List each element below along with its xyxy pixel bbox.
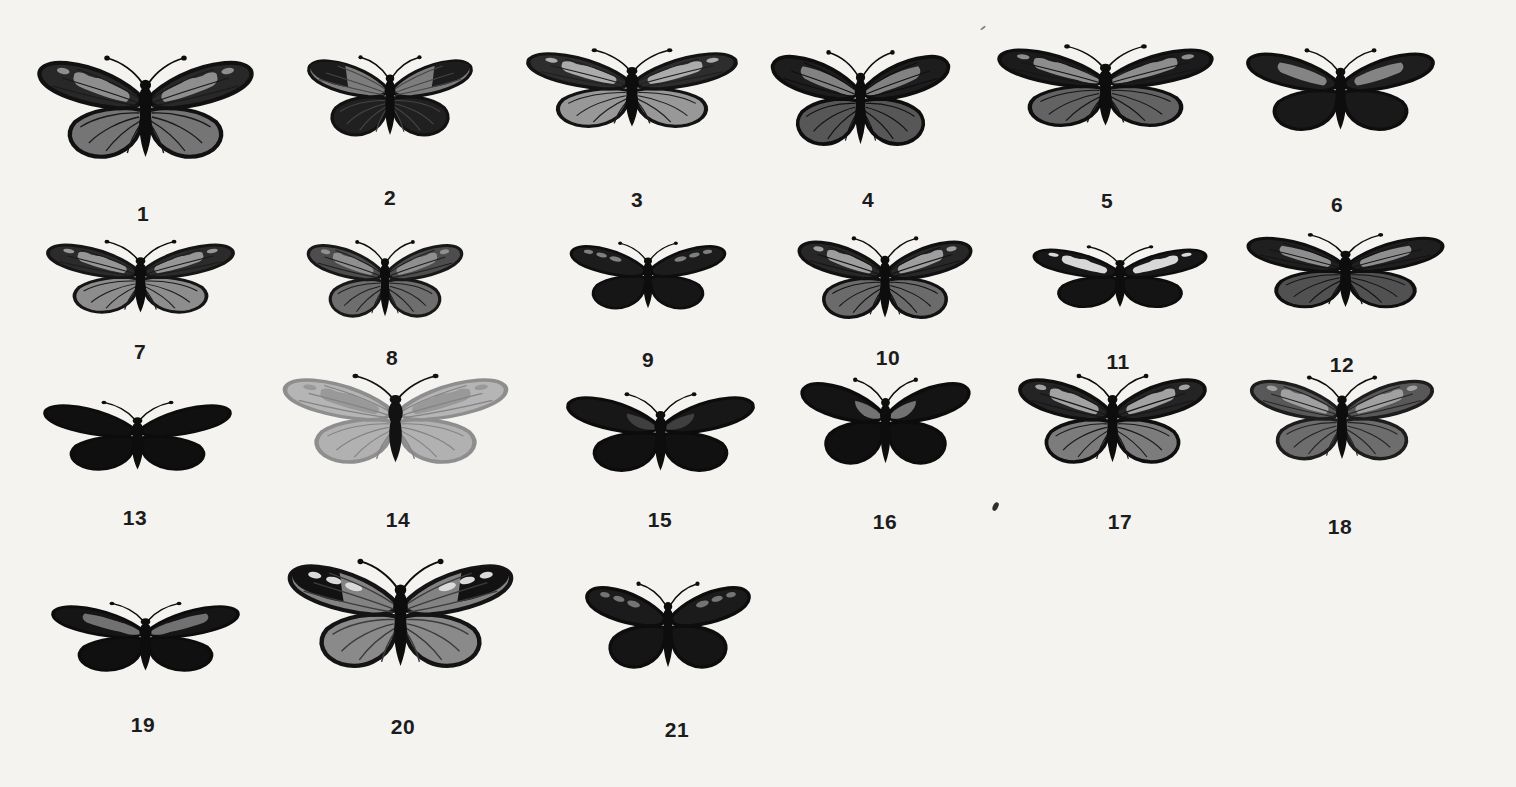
butterfly-image [763,45,958,175]
specimen-number: 13 [123,506,147,530]
butterfly-image [793,373,978,491]
butterfly-image [28,50,263,190]
specimen-number: 15 [648,508,672,532]
specimen-plate: 1 2 3 4 5 6 7 [0,0,1516,787]
butterfly-image [1242,371,1442,486]
specimen-number: 17 [1108,510,1132,534]
butterfly-image [43,598,248,693]
specimen-number: 20 [391,715,415,739]
specimen-number: 4 [862,188,874,212]
butterfly-image [790,232,980,344]
specimen-number: 18 [1328,515,1352,539]
specimen-number: 5 [1101,189,1113,213]
specimen-number: 19 [131,713,155,737]
butterfly-image [300,51,480,161]
specimen-number: 1 [137,202,149,226]
specimen-number: 9 [642,348,654,372]
butterfly-image [300,236,470,341]
specimen-number: 21 [665,718,689,742]
butterfly-image [273,369,518,491]
specimen-number: 10 [876,346,900,370]
butterfly-image [1238,44,1443,156]
stray-ink-mark [991,501,999,511]
butterfly-image [517,44,747,152]
butterfly-image [38,236,243,336]
specimen-number: 8 [386,346,398,370]
butterfly-image [278,553,523,701]
butterfly-image [1010,369,1215,491]
specimen-number: 14 [386,508,410,532]
butterfly-image [558,388,763,496]
butterfly-image [988,40,1223,152]
specimen-number: 3 [631,188,643,212]
specimen-number: 16 [873,510,897,534]
specimen-number: 2 [384,186,396,210]
butterfly-image [563,238,733,330]
butterfly-image [1238,229,1453,331]
specimen-number: 6 [1331,193,1343,217]
specimen-number: 7 [134,340,146,364]
stray-ink-mark [980,25,986,30]
butterfly-image [1025,242,1215,327]
butterfly-image [35,397,240,492]
butterfly-image [578,577,758,695]
